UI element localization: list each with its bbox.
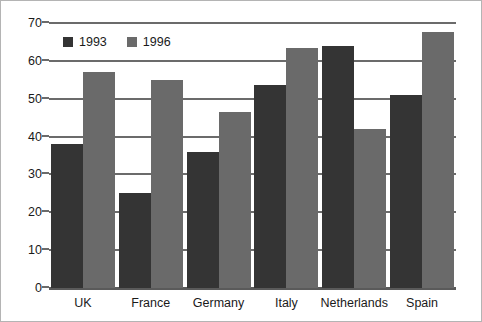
y-tick-mark <box>42 21 49 23</box>
legend-item-1996: 1996 <box>127 36 171 49</box>
x-axis-label: Netherlands <box>321 297 388 310</box>
x-axis-label: Spain <box>406 297 438 310</box>
y-tick-label: 10 <box>28 244 42 257</box>
plot-area: 010203040506070 UKFranceGermanyItalyNeth… <box>49 23 456 288</box>
y-tick-label: 60 <box>28 55 42 68</box>
bar-uk-1993 <box>51 144 83 288</box>
bar-group: Netherlands <box>320 23 388 288</box>
y-tick-mark <box>42 97 49 99</box>
bar-germany-1996 <box>219 112 251 288</box>
bar-chart-figure: 010203040506070 UKFranceGermanyItalyNeth… <box>0 0 482 322</box>
x-axis-label: Italy <box>275 297 298 310</box>
x-axis-label: Germany <box>193 297 244 310</box>
y-tick-label: 70 <box>28 17 42 30</box>
bar-group: Italy <box>253 23 321 288</box>
bar-france-1993 <box>119 193 151 288</box>
bar-spain-1996 <box>422 32 454 288</box>
y-tick-label: 30 <box>28 168 42 181</box>
bar-group: UK <box>49 23 117 288</box>
bar-netherlands-1996 <box>354 129 386 288</box>
legend-label: 1993 <box>79 36 107 49</box>
bar-france-1996 <box>151 80 183 288</box>
bar-group: Spain <box>388 23 456 288</box>
legend-label: 1996 <box>143 36 171 49</box>
legend-swatch-icon <box>63 37 73 47</box>
y-tick-mark <box>42 210 49 212</box>
y-tick-label: 20 <box>28 206 42 219</box>
legend-swatch-icon <box>127 37 137 47</box>
y-tick-label: 50 <box>28 92 42 105</box>
bar-uk-1996 <box>83 72 115 288</box>
y-tick-label: 0 <box>35 282 42 295</box>
bar-italy-1996 <box>286 48 318 288</box>
y-tick-label: 40 <box>28 130 42 143</box>
x-axis-label: France <box>131 297 170 310</box>
bar-germany-1993 <box>187 152 219 288</box>
y-tick-mark <box>42 172 49 174</box>
bar-group: France <box>117 23 185 288</box>
bar-netherlands-1993 <box>322 46 354 288</box>
bar-italy-1993 <box>254 85 286 288</box>
bar-spain-1993 <box>390 95 422 288</box>
bar-group: Germany <box>185 23 253 288</box>
y-tick-mark <box>42 135 49 137</box>
x-axis-label: UK <box>74 297 91 310</box>
legend-item-1993: 1993 <box>63 36 107 49</box>
chart-legend: 19931996 <box>63 36 171 49</box>
y-tick-mark <box>42 59 49 61</box>
bar-series-container: UKFranceGermanyItalyNetherlandsSpain <box>49 23 456 288</box>
y-tick-mark <box>42 286 49 288</box>
y-tick-mark <box>42 248 49 250</box>
